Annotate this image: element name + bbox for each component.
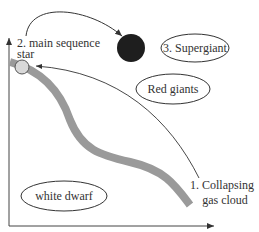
collapsing-gas-cloud-label: 1. Collapsing [190,178,254,192]
main-sequence-star [15,60,29,74]
red-giants-label: Red giants [148,82,199,96]
supergiant-label: 3. Supergiant [163,41,227,55]
main-sequence-label-line2: star [17,47,34,61]
arrow-to-supergiant [26,12,122,36]
hr-diagram: 2. main sequence star 3. Supergiant Red … [0,0,259,232]
supergiant-star [117,34,145,62]
collapsing-gas-cloud-label-line2: gas cloud [202,193,248,207]
white-dwarf-label: white dwarf [35,189,93,203]
